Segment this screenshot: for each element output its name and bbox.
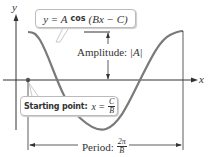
starting-point-expr: x = (91, 101, 105, 112)
x-axis-label: x (199, 73, 204, 85)
amplitude-value: |A| (130, 46, 143, 58)
y-axis-arrow-icon (14, 14, 19, 21)
equation-prefix: y = A (43, 13, 67, 25)
equation-callout-pointer (56, 26, 70, 42)
equation-box: y = A cos (Bx − C) (35, 9, 136, 28)
starting-point-label: Starting point: (24, 102, 87, 111)
starting-point-box: Starting point: x = C B (20, 96, 118, 116)
period-right-arrow-icon (176, 143, 182, 147)
starting-point-fraction: C B (108, 98, 115, 115)
amplitude-down-arrow-icon (106, 74, 110, 80)
period-label: Period: 2π B (80, 138, 129, 155)
start-callout-pointer (29, 83, 38, 96)
period-left-arrow-icon (29, 143, 35, 147)
y-axis-label: y (12, 1, 17, 13)
amplitude-up-arrow-icon (106, 33, 110, 39)
amplitude-label: Amplitude: |A| (77, 46, 143, 58)
x-axis-arrow-icon (191, 78, 198, 83)
equation-func: cos (71, 14, 86, 23)
period-fraction: 2π B (117, 138, 127, 155)
equation-argument: (Bx − C) (89, 13, 128, 25)
